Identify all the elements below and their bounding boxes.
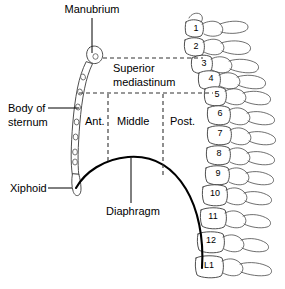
sternal-segment-3 — [75, 104, 81, 111]
vertebra-number-11: 11 — [208, 211, 217, 221]
sternal-segment-7 — [73, 159, 78, 165]
vertebra-number-3: 3 — [201, 58, 206, 68]
vertebra-number-5: 5 — [214, 89, 219, 99]
vertebra-number-10: 10 — [210, 188, 220, 198]
diaphragm-label: Diaphragm — [106, 205, 160, 217]
vertebral-column-group — [184, 13, 275, 278]
vertebra-number-8: 8 — [216, 148, 221, 158]
vertebra-number-12: 12 — [206, 235, 216, 245]
body-of-sternum-label-line1: Body of — [8, 102, 46, 114]
sternal-segment-5 — [73, 134, 78, 140]
manubrium-label: Manubrium — [64, 3, 119, 15]
xiphoid-label: Xiphoid — [10, 182, 47, 194]
middle-compartment-label: Middle — [117, 115, 149, 127]
manubrium-notch — [93, 54, 98, 60]
mediastinum-diagram: Manubrium Superior mediastinum Body of s… — [0, 0, 285, 289]
vertebra-number-4: 4 — [208, 73, 213, 83]
vertebra-number-l1: L1 — [204, 260, 214, 270]
posterior-compartment-label: Post. — [170, 115, 195, 127]
xiphoid-bone — [72, 174, 81, 196]
vertebra-number-6: 6 — [217, 108, 222, 118]
vertebra-number-9: 9 — [215, 168, 220, 178]
body-of-sternum-label-line2: sternum — [8, 116, 48, 128]
sternal-segment-6 — [73, 149, 78, 155]
anterior-compartment-label: Ant. — [85, 115, 105, 127]
leader-lines — [48, 18, 131, 203]
superior-mediastinum-label-line1: Superior — [113, 62, 155, 74]
superior-mediastinum-label-line2: mediastinum — [113, 76, 175, 88]
vertebra-number-1: 1 — [193, 23, 198, 33]
vertebra-number-7: 7 — [217, 128, 222, 138]
vertebra-number-2: 2 — [193, 41, 198, 51]
sternal-segment-4 — [74, 119, 79, 125]
